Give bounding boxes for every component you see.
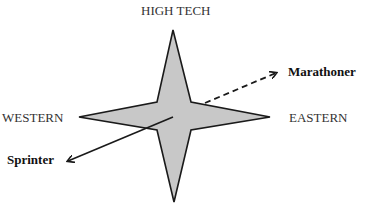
marathoner-label: Marathoner	[288, 65, 356, 78]
axis-label-eastern: EASTERN	[289, 111, 348, 124]
sprinter-label: Sprinter	[7, 153, 54, 166]
four-point-star	[79, 30, 270, 202]
marathoner-arrow	[205, 73, 276, 103]
axis-label-high-tech: HIGH TECH	[141, 4, 210, 17]
axis-label-western: WESTERN	[2, 111, 63, 124]
